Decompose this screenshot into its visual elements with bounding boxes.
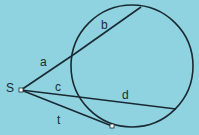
label-s: S	[6, 81, 14, 95]
point-s-marker	[19, 88, 23, 92]
label-t: t	[57, 113, 61, 127]
label-b: b	[101, 18, 108, 32]
label-c: c	[55, 80, 61, 94]
segment-a	[21, 55, 73, 90]
tangent-point-marker	[110, 124, 114, 128]
geometry-figure: S a b c d t	[0, 0, 199, 135]
diagram-canvas: S a b c d t	[0, 0, 199, 135]
label-a: a	[40, 55, 47, 69]
label-d: d	[122, 88, 129, 102]
